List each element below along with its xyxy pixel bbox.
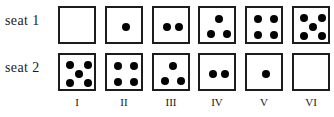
die-pip	[177, 77, 185, 85]
die-pip	[130, 62, 138, 70]
die-pip	[114, 62, 122, 70]
die-pip	[84, 79, 92, 87]
die-seat-1-II	[105, 6, 143, 44]
die-pip	[270, 15, 278, 23]
die-pip	[254, 15, 262, 23]
die-pip	[66, 61, 74, 69]
die-pip	[209, 70, 217, 78]
die-pip	[75, 70, 83, 78]
column-label-VI: VI	[292, 97, 330, 108]
die-pip	[163, 23, 171, 31]
column-label-I: I	[58, 97, 96, 108]
die-seat-2-III	[152, 53, 190, 91]
die-seat-1-VI	[292, 6, 330, 44]
die-seat-1-I	[58, 6, 96, 44]
die-seat-2-II	[105, 53, 143, 91]
die-pip	[215, 15, 223, 23]
die-pip	[169, 62, 177, 70]
die-pip	[309, 23, 317, 31]
die-seat-2-I	[58, 53, 96, 91]
die-seat-2-VI	[292, 53, 330, 91]
die-seat-1-V	[245, 6, 283, 44]
column-label-III: III	[152, 97, 190, 108]
die-pip	[300, 14, 308, 22]
die-pip	[122, 23, 130, 31]
row-label-seat-1: seat 1	[5, 14, 40, 28]
column-label-IV: IV	[198, 97, 236, 108]
die-pip	[130, 78, 138, 86]
die-pip	[114, 78, 122, 86]
die-pip	[262, 70, 270, 78]
die-pip	[300, 32, 308, 40]
die-pip	[161, 77, 169, 85]
die-seat-2-IV	[198, 53, 236, 91]
die-pip	[318, 32, 326, 40]
die-pip	[66, 79, 74, 87]
die-pip	[254, 31, 262, 39]
column-label-II: II	[105, 97, 143, 108]
die-seat-1-IV	[198, 6, 236, 44]
die-pip	[175, 23, 183, 31]
die-pip	[270, 31, 278, 39]
die-pip	[318, 14, 326, 22]
die-pip	[207, 30, 215, 38]
die-seat-1-III	[152, 6, 190, 44]
die-pip	[84, 61, 92, 69]
die-pip	[223, 30, 231, 38]
row-label-seat-2: seat 2	[5, 61, 40, 75]
dice-seat-figure: seat 1 seat 2 IIIIIIIVVVI	[0, 0, 334, 117]
die-pip	[221, 70, 229, 78]
column-label-V: V	[245, 97, 283, 108]
die-seat-2-V	[245, 53, 283, 91]
